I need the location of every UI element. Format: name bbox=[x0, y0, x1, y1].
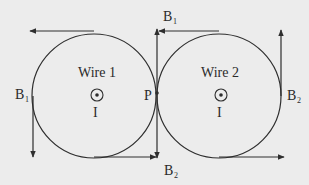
b2-right-subscript: 2 bbox=[297, 96, 301, 105]
current-out-of-page-icon bbox=[215, 89, 227, 101]
point-p-label: P bbox=[144, 88, 152, 103]
wire2-label: Wire 2 bbox=[201, 65, 239, 80]
wire2-field-circle bbox=[157, 34, 281, 158]
wire1-current-label: I bbox=[93, 105, 98, 120]
b1-left-label: B bbox=[15, 87, 24, 102]
diagram-svg: Wire 1 I Wire 2 I P B 1 B 1 B 2 B 2 bbox=[0, 0, 309, 185]
b2-bottom-subscript: 2 bbox=[174, 171, 178, 180]
magnetic-field-diagram: Wire 1 I Wire 2 I P B 1 B 1 B 2 B 2 bbox=[0, 0, 309, 185]
wire2-current-label: I bbox=[217, 105, 222, 120]
wire1-field-circle bbox=[32, 34, 156, 158]
point-p-dot bbox=[155, 91, 159, 95]
wire1-label: Wire 1 bbox=[78, 65, 116, 80]
b2-bottom-label: B bbox=[164, 163, 173, 178]
b1-top-label: B bbox=[163, 9, 172, 24]
b1-top-subscript: 1 bbox=[173, 17, 177, 26]
b2-right-label: B bbox=[287, 88, 296, 103]
current-out-of-page-icon bbox=[91, 89, 103, 101]
b1-left-subscript: 1 bbox=[25, 95, 29, 104]
